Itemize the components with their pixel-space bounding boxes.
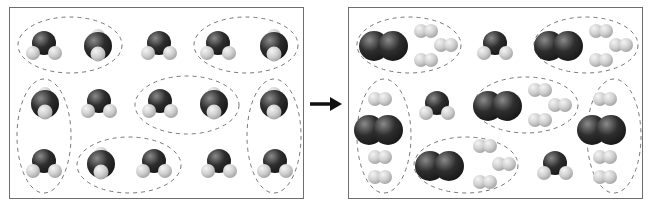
hydrogen-molecule <box>368 150 392 164</box>
hydrogen-molecule <box>473 139 497 153</box>
products-panel <box>348 7 643 199</box>
water-molecule <box>477 31 513 60</box>
water-molecule <box>84 29 112 62</box>
hydrogen-molecule <box>593 92 617 106</box>
water-molecule <box>257 149 293 178</box>
hydrogen-molecule <box>589 24 613 38</box>
hydrogen-molecule <box>528 83 552 97</box>
reactants-panel <box>9 7 304 199</box>
hydrogen-molecule <box>414 53 438 67</box>
hydrogen-molecule <box>593 170 617 184</box>
hydrogen-molecule <box>609 38 633 52</box>
water-molecule <box>201 149 237 178</box>
oxygen-molecule <box>354 115 403 145</box>
water-molecule <box>419 91 455 120</box>
products-drawing <box>349 8 644 200</box>
hydrogen-molecule <box>473 175 497 189</box>
water-molecule <box>26 149 62 178</box>
water-molecule <box>537 151 573 180</box>
oxygen-molecule <box>415 151 464 181</box>
water-molecule <box>81 89 117 118</box>
hydrogen-molecule <box>528 113 552 127</box>
oxygen-molecule <box>534 31 583 61</box>
water-molecule <box>142 89 178 118</box>
oxygen-molecule <box>577 115 626 145</box>
water-molecule <box>141 31 177 60</box>
oxygen-molecule <box>359 31 408 61</box>
hydrogen-molecule <box>368 92 392 106</box>
hydrogen-molecule <box>589 53 613 67</box>
water-molecule <box>31 87 59 120</box>
water-molecule <box>87 147 115 180</box>
reaction-arrow-icon <box>308 95 344 113</box>
hydrogen-molecule <box>492 157 516 171</box>
hydrogen-molecule <box>414 24 438 38</box>
water-molecule <box>26 31 62 60</box>
water-molecule <box>260 29 288 62</box>
water-molecule <box>200 87 228 120</box>
oxygen-molecule <box>473 91 522 121</box>
water-molecule <box>200 31 236 60</box>
hydrogen-molecule <box>434 38 458 52</box>
reactants-drawing <box>10 8 305 200</box>
hydrogen-molecule <box>368 170 392 184</box>
hydrogen-molecule <box>593 150 617 164</box>
water-molecule <box>260 87 288 120</box>
water-molecule <box>136 149 172 178</box>
hydrogen-molecule <box>548 98 572 112</box>
